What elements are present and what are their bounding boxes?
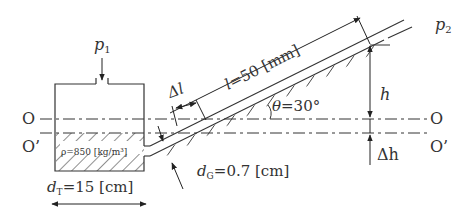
h-label: h <box>380 85 390 104</box>
Oprime-right-label: O’ <box>430 137 448 156</box>
delta-l-label: Δl <box>164 79 186 102</box>
manometer-diagram: p1 p2 O O’ O O’ l=50 [mm] Δl θ=30° h Δh … <box>0 0 464 222</box>
density-label: ρ=850 [kg/m³] <box>61 147 127 157</box>
delta-l-dimension <box>172 103 196 126</box>
angle-label: θ=30° <box>272 97 320 115</box>
p2-label: p2 <box>435 15 452 35</box>
O-left-label: O <box>22 109 35 128</box>
O-right-label: O <box>430 109 443 128</box>
dG-label: dG=0.7 [cm] <box>197 162 289 181</box>
dT-label: dT=15 [cm] <box>47 178 133 197</box>
p1-label: p1 <box>94 35 111 55</box>
angle-arc <box>268 105 271 119</box>
delta-h-label: Δh <box>377 145 399 164</box>
Oprime-left-label: O’ <box>22 137 40 156</box>
length-label: l=50 [mm] <box>222 41 303 93</box>
